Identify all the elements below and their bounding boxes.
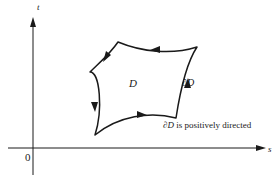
x-axis-label: s	[268, 145, 272, 154]
y-axis-label: t	[37, 3, 40, 12]
boundary-set-symbol: D	[187, 77, 194, 88]
x-axis-arrow-icon	[256, 145, 266, 151]
region-label: D	[129, 78, 137, 89]
figure-caption: ∂D is positively directed	[163, 121, 251, 130]
curve-arrow-bottom-side-icon	[137, 111, 147, 118]
y-axis-arrow-icon	[30, 17, 36, 27]
figure-container: t s 0 D ∂D ∂D is positively directed	[0, 0, 279, 183]
origin-label: 0	[25, 152, 31, 163]
curve-arrow-left-side-icon	[91, 102, 98, 112]
boundary-label: ∂D	[182, 78, 194, 88]
curve-arrow-top-side-icon	[150, 46, 160, 53]
caption-text: is positively directed	[174, 120, 251, 130]
figure-canvas	[0, 0, 279, 183]
